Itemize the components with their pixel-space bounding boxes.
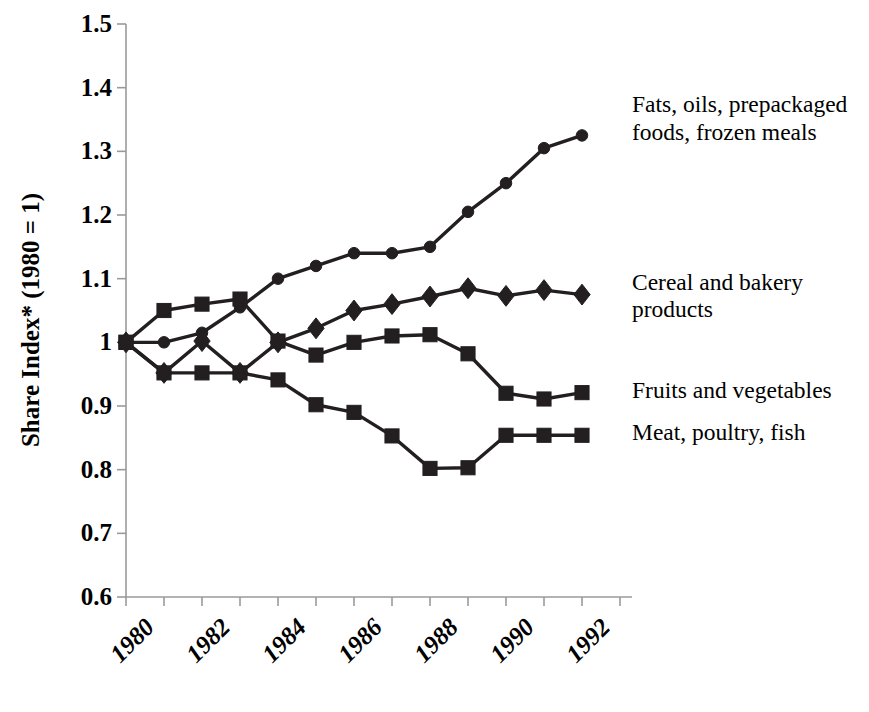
data-point-square bbox=[271, 373, 285, 387]
legend-label-meat: Meat, poultry, fish bbox=[632, 419, 805, 446]
data-point-circle bbox=[348, 247, 360, 259]
data-point-square bbox=[499, 386, 513, 400]
series-1 bbox=[118, 278, 590, 384]
data-point-square bbox=[537, 392, 551, 406]
data-point-circle bbox=[424, 241, 436, 253]
data-point-circle bbox=[386, 247, 398, 259]
data-point-circle bbox=[158, 337, 170, 349]
data-point-square bbox=[575, 386, 589, 400]
data-point-circle bbox=[538, 142, 550, 154]
data-point-diamond bbox=[308, 318, 324, 339]
data-point-diamond bbox=[384, 294, 400, 315]
data-point-square bbox=[575, 428, 589, 442]
legend-label-fruits: Fruits and vegetables bbox=[632, 377, 832, 404]
data-point-circle bbox=[272, 273, 284, 285]
data-point-circle bbox=[462, 206, 474, 218]
data-point-square bbox=[157, 303, 171, 317]
data-point-square bbox=[499, 428, 513, 442]
data-point-circle bbox=[576, 130, 588, 142]
data-point-circle bbox=[310, 260, 322, 272]
data-point-square bbox=[157, 366, 171, 380]
data-point-square bbox=[385, 429, 399, 443]
data-point-square bbox=[347, 335, 361, 349]
data-series-group bbox=[118, 130, 590, 476]
data-point-square bbox=[461, 347, 475, 361]
data-point-circle bbox=[500, 177, 512, 189]
legend-label-cereal: Cereal and bakery products bbox=[632, 269, 803, 324]
data-point-square bbox=[195, 366, 209, 380]
data-point-square bbox=[271, 334, 285, 348]
data-point-square bbox=[309, 398, 323, 412]
data-point-diamond bbox=[460, 278, 476, 299]
data-point-square bbox=[537, 428, 551, 442]
data-point-diamond bbox=[346, 300, 362, 321]
series-3 bbox=[119, 335, 589, 475]
data-point-square bbox=[385, 329, 399, 343]
axis-lines bbox=[117, 24, 632, 606]
data-point-square bbox=[119, 335, 133, 349]
data-point-square bbox=[309, 348, 323, 362]
data-point-square bbox=[423, 328, 437, 342]
data-point-diamond bbox=[498, 285, 514, 306]
data-point-square bbox=[461, 461, 475, 475]
data-point-diamond bbox=[574, 284, 590, 305]
legend-label-fats: Fats, oils, prepackaged foods, frozen me… bbox=[632, 91, 847, 146]
data-point-diamond bbox=[422, 286, 438, 307]
data-point-square bbox=[423, 461, 437, 475]
data-point-square bbox=[233, 292, 247, 306]
data-point-diamond bbox=[536, 280, 552, 301]
data-point-square bbox=[195, 297, 209, 311]
data-point-square bbox=[233, 366, 247, 380]
data-point-square bbox=[347, 405, 361, 419]
chart-figure: Share Index* (1980 = 1) 1.51.41.31.21.11… bbox=[0, 0, 869, 712]
